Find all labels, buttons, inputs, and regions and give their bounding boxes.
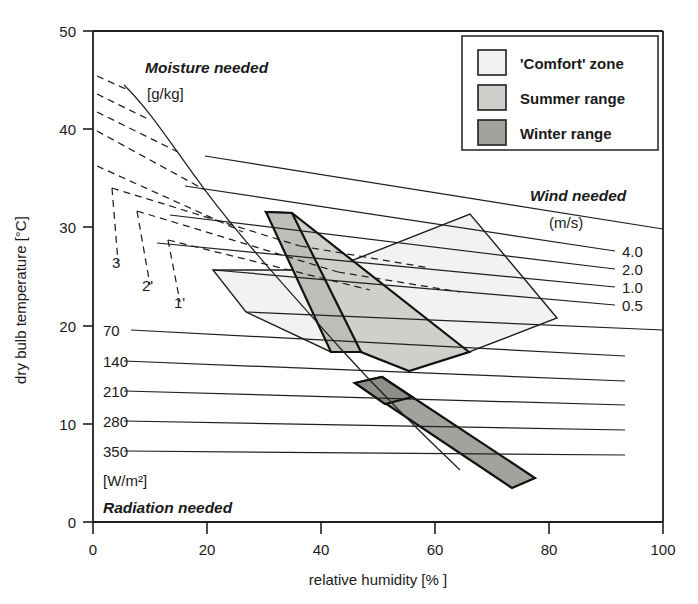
bioclimatic-chart-figure: 0 10 20 30 40 50 0 20 40 60 80 100 relat… xyxy=(0,0,698,604)
y-tick-label-10: 10 xyxy=(59,416,76,433)
m-per-s-units-label: (m/s) xyxy=(549,214,583,231)
wind-value-2-0: 2.0 xyxy=(622,261,643,278)
legend-swatch-winter xyxy=(478,120,506,145)
moisture-value-1: 1' xyxy=(174,294,185,311)
x-tick-label-20: 20 xyxy=(199,541,216,558)
legend-label-summer: Summer range xyxy=(520,90,625,107)
x-tick-label-100: 100 xyxy=(650,541,675,558)
moisture-needed-label: Moisture needed xyxy=(145,59,269,76)
y-axis-title: dry bulb temperature [°C] xyxy=(12,216,29,384)
wind-value-4-0: 4.0 xyxy=(622,243,643,260)
y-tick-label-0: 0 xyxy=(68,514,76,531)
legend-swatch-summer xyxy=(478,85,506,110)
legend-swatch-comfort xyxy=(478,50,506,75)
y-tick-label-30: 30 xyxy=(59,219,76,236)
g-per-kg-units-label: [g/kg] xyxy=(147,85,184,102)
y-tick-label-50: 50 xyxy=(59,23,76,40)
radiation-needed-label: Radiation needed xyxy=(103,499,233,516)
moisture-value-3: 3 xyxy=(112,254,120,271)
w-per-m2-units-label: [W/m²] xyxy=(103,472,147,489)
legend-label-winter: Winter range xyxy=(520,125,612,142)
x-tick-label-40: 40 xyxy=(313,541,330,558)
y-axis-ticks xyxy=(83,31,93,522)
moisture-value-2: 2' xyxy=(142,277,153,294)
radiation-value-140: 140 xyxy=(103,353,128,370)
legend: 'Comfort' zone Summer range Winter range xyxy=(462,36,658,150)
wind-needed-label: Wind needed xyxy=(530,187,627,204)
radiation-value-350: 350 xyxy=(103,443,128,460)
legend-label-comfort: 'Comfort' zone xyxy=(520,55,624,72)
wind-value-0-5: 0.5 xyxy=(622,297,643,314)
chart-svg: 0 10 20 30 40 50 0 20 40 60 80 100 relat… xyxy=(0,0,698,604)
x-tick-label-0: 0 xyxy=(89,541,97,558)
x-tick-label-80: 80 xyxy=(541,541,558,558)
x-axis-title: relative humidity [% ] xyxy=(309,571,447,588)
radiation-value-280: 280 xyxy=(103,413,128,430)
radiation-value-70: 70 xyxy=(103,322,120,339)
y-tick-label-40: 40 xyxy=(59,121,76,138)
y-tick-label-20: 20 xyxy=(59,318,76,335)
wind-value-1-0: 1.0 xyxy=(622,279,643,296)
radiation-value-210: 210 xyxy=(103,383,128,400)
x-tick-label-60: 60 xyxy=(427,541,444,558)
x-axis-ticks xyxy=(93,522,663,534)
